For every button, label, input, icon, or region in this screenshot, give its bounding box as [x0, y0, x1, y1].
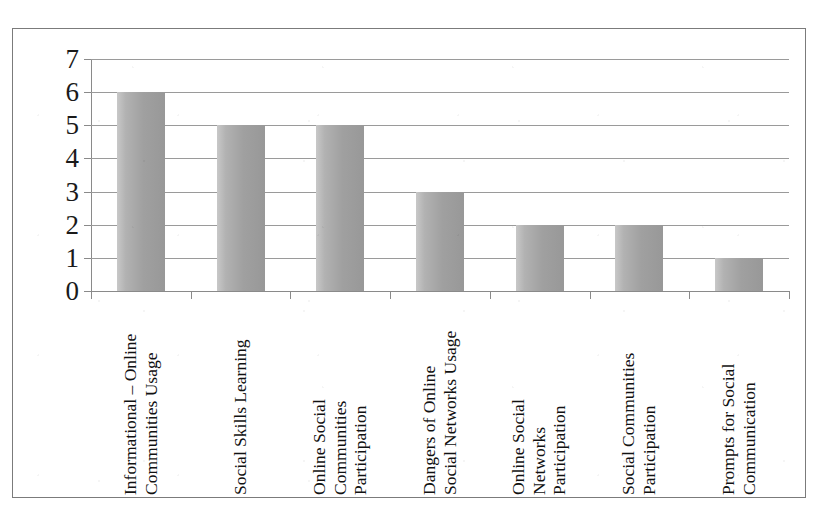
x-axis-label-line: Social Networks Usage — [440, 331, 461, 495]
bar — [217, 125, 265, 291]
gridline-4 — [91, 158, 789, 159]
bar — [516, 225, 564, 291]
y-tick-label-0: 0 — [66, 278, 80, 305]
x-axis-label-line: Participation — [549, 399, 570, 495]
gridline-5 — [91, 125, 789, 126]
y-tick-mark-4 — [84, 158, 91, 159]
y-tick-mark-7 — [84, 59, 91, 60]
x-axis-label-line: Online Social — [508, 399, 529, 495]
x-axis-label-line: Communication — [739, 364, 760, 495]
y-axis-line — [91, 59, 92, 291]
y-tick-label-2: 2 — [66, 211, 80, 238]
x-tick-mark-1 — [191, 291, 192, 299]
x-axis-label-line: Social Skills Learning — [230, 339, 251, 495]
bar — [715, 258, 763, 291]
x-axis-label-line: Online Social — [309, 399, 330, 495]
plot-area: 01234567 — [91, 59, 789, 291]
gridline-7 — [91, 59, 789, 60]
y-tick-label-1: 1 — [66, 244, 80, 271]
x-axis-label: Social Skills Learning — [230, 299, 251, 495]
x-axis-label-line: Participation — [639, 353, 660, 495]
x-axis-label: Dangers of OnlineSocial Networks Usage — [419, 299, 461, 495]
y-tick-mark-6 — [84, 92, 91, 93]
x-axis-label-line: Networks — [529, 399, 550, 495]
x-tick-mark-4 — [490, 291, 491, 299]
x-axis-label: Online SocialCommunitiesParticipation — [309, 299, 372, 495]
x-axis-label-line: Communities Usage — [140, 334, 161, 495]
y-tick-label-3: 3 — [66, 178, 80, 205]
x-tick-mark-6 — [689, 291, 690, 299]
y-tick-label-6: 6 — [66, 79, 80, 106]
bar — [615, 225, 663, 291]
x-tick-mark-7 — [789, 291, 790, 299]
x-axis-label: Social CommunitiesParticipation — [618, 299, 660, 495]
x-axis-label-line: Communities — [329, 399, 350, 495]
bar — [316, 125, 364, 291]
x-tick-mark-0 — [91, 291, 92, 299]
bar — [416, 192, 464, 291]
x-tick-mark-5 — [590, 291, 591, 299]
x-axis-category-labels: Informational – OnlineCommunities UsageS… — [91, 299, 789, 495]
gridline-0 — [91, 291, 789, 292]
x-tick-mark-3 — [390, 291, 391, 299]
y-tick-label-5: 5 — [66, 112, 80, 139]
x-axis-label-line: Social Communities — [618, 353, 639, 495]
x-axis-label: Online SocialNetworksParticipation — [508, 299, 571, 495]
y-tick-mark-5 — [84, 125, 91, 126]
y-tick-label-7: 7 — [66, 46, 80, 73]
bar — [117, 92, 165, 291]
x-axis-label: Prompts for SocialCommunication — [718, 299, 760, 495]
y-tick-mark-3 — [84, 192, 91, 193]
y-tick-label-4: 4 — [66, 145, 80, 172]
x-axis-label-line: Participation — [350, 399, 371, 495]
x-axis-label-line: Dangers of Online — [419, 331, 440, 495]
bar-chart-figure: 01234567 Informational – OnlineCommuniti… — [12, 28, 806, 498]
y-tick-mark-2 — [84, 225, 91, 226]
gridline-6 — [91, 92, 789, 93]
x-axis-label-line: Informational – Online — [120, 334, 141, 495]
x-tick-mark-2 — [290, 291, 291, 299]
y-tick-mark-0 — [84, 291, 91, 292]
x-axis-label-line: Prompts for Social — [718, 364, 739, 495]
y-tick-mark-1 — [84, 258, 91, 259]
x-axis-label: Informational – OnlineCommunities Usage — [120, 299, 162, 495]
